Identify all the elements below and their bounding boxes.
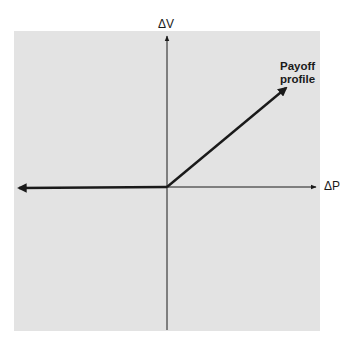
payoff-profile-rising-segment: [167, 88, 286, 187]
payoff-label-line2: profile: [280, 73, 315, 86]
payoff-label-line1: Payoff: [280, 60, 315, 73]
x-axis-label: ΔP: [324, 179, 340, 193]
payoff-profile-label: Payoff profile: [280, 60, 315, 86]
y-axis-label: ΔV: [158, 17, 174, 31]
payoff-diagram: [0, 0, 355, 345]
payoff-profile-flat-segment: [19, 187, 167, 188]
